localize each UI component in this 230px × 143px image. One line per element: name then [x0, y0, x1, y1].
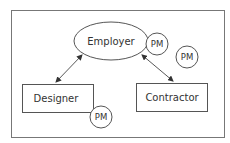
designer-label: Designer: [34, 93, 80, 104]
employer-label: Employer: [87, 36, 135, 47]
designer-node: Designer: [23, 85, 94, 113]
pm-designer-node: PM: [90, 106, 112, 128]
pm-label: PM: [181, 52, 193, 62]
pm-label: PM: [151, 39, 163, 49]
contractor-node: Contractor: [137, 84, 208, 112]
pm-free-node: PM: [176, 46, 198, 68]
pm-employer-node: PM: [146, 33, 168, 55]
pm-label: PM: [95, 112, 107, 122]
employer-node: Employer: [74, 22, 148, 60]
diagram-canvas: Employer PM PM Designer Contractor PM: [0, 0, 230, 143]
contractor-label: Contractor: [145, 92, 199, 103]
